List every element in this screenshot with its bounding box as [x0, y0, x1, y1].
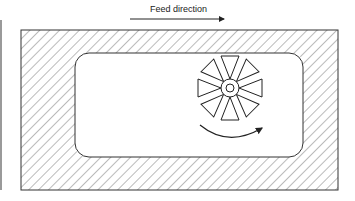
workpiece	[21, 30, 338, 190]
milling-diagram	[0, 0, 355, 201]
pocket	[75, 53, 303, 157]
cutter-icon	[198, 56, 262, 120]
